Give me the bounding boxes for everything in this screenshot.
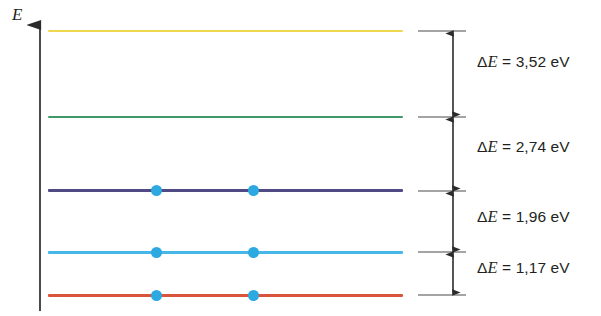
transition-value: 2,74 <box>516 138 547 155</box>
transition-value: 1,17 <box>516 259 547 276</box>
transition-energy-symbol: E <box>487 137 497 156</box>
transition-equals: = <box>498 259 516 276</box>
transition-energy-symbol: E <box>487 207 497 226</box>
transition-label-gap-1: ΔE = 3,52 eV <box>477 54 570 71</box>
transition-unit: eV <box>546 208 570 225</box>
transition-label-gap-2: ΔE = 2,74 eV <box>477 139 570 156</box>
transition-equals: = <box>498 208 516 225</box>
measure-ticks-group <box>418 31 466 295</box>
transition-delta-symbol: Δ <box>477 208 487 225</box>
transition-delta-symbol: Δ <box>477 259 487 276</box>
transition-label-gap-3: ΔE = 1,96 eV <box>477 209 570 226</box>
transition-energy-symbol: E <box>487 52 497 71</box>
transition-delta-symbol: Δ <box>477 53 487 70</box>
transition-unit: eV <box>546 53 570 70</box>
transition-value: 3,52 <box>516 53 547 70</box>
transition-delta-symbol: Δ <box>477 138 487 155</box>
energy-level-diagram: E ΔE = 3,52 eV ΔE = 2,74 eV ΔE = 1,96 eV… <box>0 0 601 316</box>
transition-energy-symbol: E <box>487 258 497 277</box>
energy-axis-label: E <box>12 6 23 23</box>
transition-equals: = <box>498 53 516 70</box>
transition-label-gap-4: ΔE = 1,17 eV <box>477 260 570 277</box>
transition-unit: eV <box>546 259 570 276</box>
transition-value: 1,96 <box>516 208 547 225</box>
transition-unit: eV <box>546 138 570 155</box>
transition-equals: = <box>498 138 516 155</box>
